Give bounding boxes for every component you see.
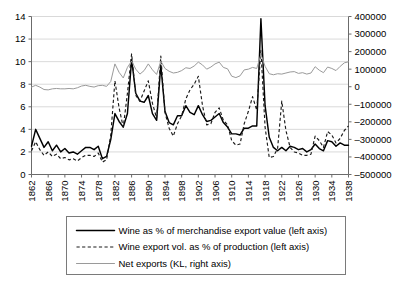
right-axis-tick-label: 200000 [355, 46, 387, 57]
x-axis-tick-label: 1918 [260, 181, 271, 202]
right-axis-tick-label: –300000 [355, 134, 392, 145]
x-axis-tick-label: 1938 [343, 181, 354, 202]
left-axis-tick-label: 8 [20, 79, 25, 90]
right-axis-tick-label: 100000 [355, 64, 387, 75]
x-axis-tick-label: 1894 [160, 181, 171, 202]
x-axis-tick-label: 1922 [276, 181, 287, 202]
x-axis-tick-label: 1866 [43, 181, 54, 202]
x-axis-tick-label: 1926 [293, 181, 304, 202]
x-axis-tick-label: 1906 [210, 181, 221, 202]
left-axis-tick-label: 14 [15, 11, 26, 22]
x-axis-tick-label: 1870 [59, 181, 70, 202]
right-axis-tick-label: 0 [355, 81, 360, 92]
x-axis-tick-label: 1890 [143, 181, 154, 202]
chart-legend: Wine as % of merchandise export value (l… [67, 217, 346, 275]
legend-label-1: Wine as % of merchandise export value (l… [119, 225, 328, 236]
legend-label-3: Net exports (KL, right axis) [119, 258, 231, 269]
x-axis-tick-label: 1898 [176, 181, 187, 202]
left-axis-tick-label: 6 [20, 101, 25, 112]
x-axis-tick-label: 1934 [326, 181, 337, 202]
right-axis-tick-label: 300000 [355, 28, 387, 39]
x-axis-tick-label: 1874 [76, 181, 87, 202]
left-axis-tick-label: 0 [20, 169, 25, 180]
x-axis-tick-label: 1878 [93, 181, 104, 202]
line-chart: 02468101214–500000–400000–300000–200000–… [0, 0, 414, 285]
x-axis-tick-label: 1882 [110, 181, 121, 202]
right-axis-tick-label: –200000 [355, 116, 392, 127]
right-axis-tick-label: 400000 [355, 11, 387, 22]
x-axis-tick-label: 1862 [26, 181, 37, 202]
right-axis-tick-label: –100000 [355, 99, 392, 110]
right-axis-tick-label: –500000 [355, 169, 392, 180]
left-axis-tick-label: 12 [15, 33, 26, 44]
left-axis-tick-label: 10 [15, 56, 26, 67]
left-axis-tick-label: 2 [20, 146, 25, 157]
x-axis-tick-label: 1886 [126, 181, 137, 202]
x-axis-tick-label: 1902 [193, 181, 204, 202]
chart-figure: 02468101214–500000–400000–300000–200000–… [0, 0, 414, 285]
x-axis-tick-label: 1930 [310, 181, 321, 202]
x-axis-tick-label: 1914 [243, 181, 254, 202]
left-axis-tick-label: 4 [20, 124, 25, 135]
right-axis-tick-label: –400000 [355, 151, 392, 162]
legend-label-2: Wine export vol. as % of production (lef… [119, 241, 310, 252]
x-axis-tick-label: 1910 [226, 181, 237, 202]
